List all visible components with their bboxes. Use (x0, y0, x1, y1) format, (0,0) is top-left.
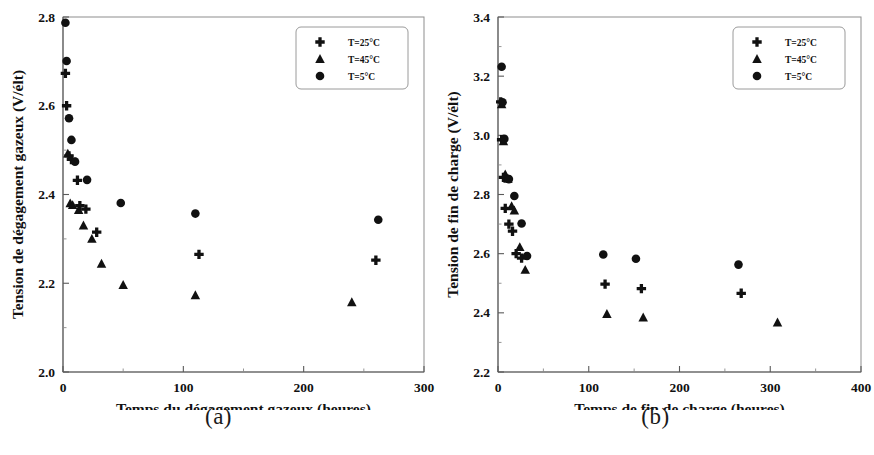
y-tick-label-1: 2.4 (473, 305, 490, 320)
data-point-T5C-0 (61, 18, 70, 27)
data-point-T5C-5 (83, 176, 92, 185)
series-T5C (497, 62, 742, 269)
legend-label-0: T=25°C (785, 38, 817, 48)
x-tick-label-2: 200 (294, 380, 315, 395)
y-tick-label-1: 2.2 (38, 276, 55, 291)
data-point-T45C-7 (520, 265, 530, 274)
scatter-plot-b: 2.22.42.62.83.03.23.40100200300400Temps … (437, 0, 874, 410)
data-point-T5C-legend2 (753, 72, 762, 81)
data-point-T45C-9 (638, 313, 648, 322)
data-point-T5C-7 (599, 250, 608, 259)
legend-label-0: T=25°C (348, 38, 380, 48)
data-point-T5C-1 (498, 98, 507, 107)
y-tick-label-0: 2.0 (38, 365, 55, 380)
y-axis-title: Tension de fin de charge (V/élt) (444, 91, 462, 298)
data-point-T45C-4 (79, 221, 89, 230)
y-tick-label-3: 2.8 (473, 187, 490, 202)
data-point-T5C-4 (510, 192, 519, 201)
data-point-T25C-8 (600, 279, 609, 288)
scatter-plot-a: 2.02.22.42.62.80100200300Temps du dégage… (0, 0, 437, 410)
data-point-T45C-8 (602, 309, 612, 318)
data-point-T25C-10 (737, 289, 746, 298)
chart-panel-a: 2.02.22.42.62.80100200300Temps du dégage… (0, 0, 437, 455)
y-tick-label-5: 3.2 (473, 69, 490, 84)
data-point-T25C-0 (61, 69, 70, 78)
y-tick-label-4: 3.0 (473, 128, 490, 143)
figure-container: 2.02.22.42.62.80100200300Temps du dégage… (0, 0, 874, 455)
data-point-T5C-0 (497, 62, 506, 71)
data-point-T25C-8 (194, 250, 203, 259)
y-tick-label-0: 2.2 (473, 365, 490, 380)
legend-label-2: T=5°C (348, 72, 375, 82)
legend-label-1: T=45°C (785, 55, 817, 65)
data-point-T45C-6 (515, 242, 525, 251)
data-point-T5C-3 (67, 136, 76, 145)
y-tick-label-2: 2.4 (38, 187, 55, 202)
data-point-T5C-8 (632, 254, 641, 263)
x-tick-label-2: 200 (669, 380, 690, 395)
x-tick-label-1: 100 (579, 380, 600, 395)
data-point-T25C-4 (73, 176, 82, 185)
y-tick-label-4: 2.8 (38, 10, 55, 25)
data-point-T5C-legend2 (316, 72, 325, 81)
data-point-T45C-9 (347, 297, 357, 306)
x-tick-label-3: 300 (760, 380, 781, 395)
series-T25C (61, 69, 381, 265)
data-point-T5C-8 (374, 215, 383, 224)
data-point-T25C-9 (637, 284, 646, 293)
data-point-T5C-9 (734, 260, 743, 269)
chart-panel-b: 2.22.42.62.83.03.23.40100200300400Temps … (437, 0, 874, 455)
x-tick-label-1: 100 (173, 380, 194, 395)
y-tick-label-2: 2.6 (473, 246, 490, 261)
x-tick-label-3: 300 (414, 380, 435, 395)
y-axis-title: Tension de dégagement gazeux (V/élt) (9, 70, 27, 319)
data-point-T25C-9 (371, 255, 380, 264)
data-point-T5C-3 (505, 175, 514, 184)
legend: T=25°CT=45°CT=5°C (733, 27, 845, 89)
data-point-T5C-6 (116, 199, 125, 208)
data-point-T5C-4 (71, 157, 80, 166)
y-tick-label-3: 2.6 (38, 98, 55, 113)
panel-caption-b: (b) (437, 404, 874, 430)
data-point-T25C-7 (92, 228, 101, 237)
x-tick-label-0: 0 (60, 380, 67, 395)
x-tick-label-4: 400 (851, 380, 872, 395)
series-T45C (63, 149, 356, 307)
data-point-T45C-8 (191, 290, 201, 299)
y-tick-label-6: 3.4 (473, 10, 490, 25)
legend-label-1: T=45°C (348, 55, 380, 65)
data-point-T5C-5 (517, 219, 526, 228)
data-point-T5C-1 (62, 57, 71, 66)
data-point-T5C-2 (65, 114, 74, 123)
series-T25C (496, 97, 746, 298)
data-point-T45C-10 (773, 318, 783, 327)
legend-label-2: T=5°C (785, 72, 812, 82)
data-point-T45C-6 (97, 259, 107, 268)
data-point-T45C-7 (118, 280, 128, 289)
data-point-T5C-6 (523, 252, 532, 261)
data-point-T5C-7 (191, 209, 200, 218)
data-point-T5C-2 (500, 135, 509, 144)
panel-caption-a: (a) (0, 404, 437, 430)
x-tick-label-0: 0 (495, 380, 502, 395)
legend: T=25°CT=45°CT=5°C (296, 27, 408, 89)
